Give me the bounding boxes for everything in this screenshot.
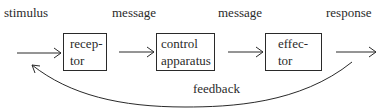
message-arrow-2 (228, 47, 263, 57)
effector-line-1: effec- (278, 35, 308, 52)
stimulus-arrow (17, 48, 61, 58)
receptor-line-1: recep- (70, 35, 102, 52)
effector-line-2: tor (278, 52, 292, 69)
receptor-box: recep- tor (63, 33, 107, 71)
response-label: response (326, 6, 372, 20)
feedback-label: feedback (193, 82, 240, 96)
message-arrow-1 (119, 47, 154, 57)
control-line-1: control (161, 35, 198, 52)
control-line-2: apparatus (161, 52, 211, 69)
message-label-2: message (218, 6, 262, 20)
response-arrow (336, 47, 376, 57)
receptor-line-2: tor (70, 52, 84, 69)
control-apparatus-box: control apparatus (156, 33, 215, 71)
message-label-1: message (112, 6, 156, 20)
stimulus-label: stimulus (4, 6, 48, 20)
effector-box: effec- tor (265, 33, 322, 71)
